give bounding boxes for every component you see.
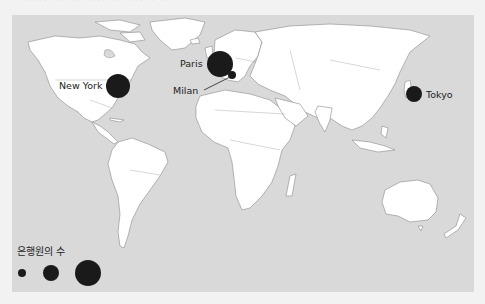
central-america: [92, 122, 118, 144]
bubble-tokyo: [406, 86, 422, 102]
legend-bubble-large: [75, 260, 101, 286]
city-label-new-york: New York: [59, 80, 103, 91]
bubble-new-york: [106, 74, 130, 98]
south-america: [108, 138, 168, 248]
greenland: [150, 18, 205, 50]
legend-bubble-medium: [43, 265, 59, 281]
australia: [382, 180, 438, 222]
city-label-milan: Milan: [173, 85, 198, 96]
legend-bubble-small: [18, 269, 26, 277]
north-america: [28, 36, 150, 122]
world-map: [0, 0, 485, 304]
new-zealand: [444, 214, 466, 238]
city-label-paris: Paris: [180, 58, 203, 69]
milan-leader-line: [204, 77, 230, 90]
city-label-tokyo: Tokyo: [426, 89, 453, 100]
legend-title: 은행원의 수: [17, 243, 65, 258]
